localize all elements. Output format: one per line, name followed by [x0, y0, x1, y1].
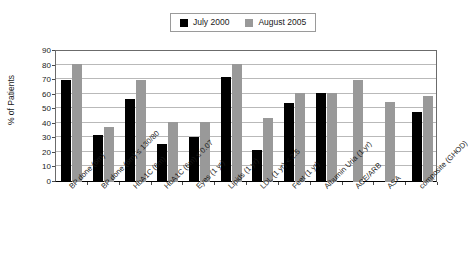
x-axis-tick-mark	[214, 182, 215, 185]
bar-group	[88, 51, 120, 182]
bar-group	[120, 51, 152, 182]
bar	[136, 80, 146, 182]
bar	[93, 135, 103, 182]
bar	[189, 137, 199, 182]
x-axis-tick-mark	[310, 182, 311, 185]
y-axis-tick-mark	[52, 65, 55, 66]
bar-group	[311, 51, 343, 182]
bar-group	[247, 51, 279, 182]
bar	[385, 102, 395, 182]
legend-label-july-2000: July 2000	[193, 18, 229, 27]
bar-group	[279, 51, 311, 182]
y-axis-tick-label: 90	[35, 47, 51, 55]
bar	[263, 118, 273, 182]
y-axis-tick-label: 20	[35, 149, 51, 157]
y-axis-tick-label: 50	[35, 105, 51, 113]
bar-group	[183, 51, 215, 182]
bar	[327, 93, 337, 182]
x-axis-tick-mark	[182, 182, 183, 185]
legend-entry-august-2005: August 2005	[245, 18, 306, 27]
y-axis-tick-label: 60	[35, 91, 51, 99]
y-axis-tick-label: 30	[35, 134, 51, 142]
x-axis-tick-mark	[405, 182, 406, 185]
bar	[423, 96, 433, 182]
bars-layer	[56, 51, 436, 182]
y-axis-tick-label: 40	[35, 120, 51, 128]
y-axis-tick-label: 0	[35, 178, 51, 186]
bar	[200, 122, 210, 182]
bar	[125, 99, 135, 182]
bar	[284, 103, 294, 182]
y-axis-tick-mark	[52, 137, 55, 138]
y-axis-tick-mark	[52, 152, 55, 153]
bar	[157, 144, 167, 182]
bar	[104, 127, 114, 182]
legend-swatch-gray-icon	[245, 19, 253, 27]
bar	[168, 122, 178, 182]
x-axis-tick-mark	[87, 182, 88, 185]
bar	[295, 93, 305, 182]
bar	[353, 80, 363, 182]
bar	[252, 150, 262, 182]
x-axis-tick-mark	[278, 182, 279, 185]
x-axis-tick-mark	[246, 182, 247, 185]
legend-label-august-2005: August 2005	[258, 18, 306, 27]
y-axis-tick-mark	[52, 181, 55, 182]
bar-group	[215, 51, 247, 182]
legend-entry-july-2000: July 2000	[180, 18, 229, 27]
y-axis-tick-label: 10	[35, 163, 51, 171]
x-axis-tick-mark	[437, 182, 438, 185]
bar	[412, 112, 422, 182]
x-axis-tick-mark	[373, 182, 374, 185]
bar-group	[374, 51, 406, 182]
y-axis-tick-label: 80	[35, 62, 51, 70]
y-axis-title: % of Patients	[6, 55, 16, 145]
bar	[316, 93, 326, 182]
x-axis-tick-mark	[119, 182, 120, 185]
y-axis-tick-mark	[52, 79, 55, 80]
bar-group	[152, 51, 184, 182]
bar	[61, 80, 71, 182]
y-axis-tick-mark	[52, 108, 55, 109]
y-axis-tick-mark	[52, 94, 55, 95]
bar-group	[343, 51, 375, 182]
chart-legend: July 2000 August 2005	[170, 13, 316, 32]
bar-group	[406, 51, 438, 182]
y-axis-tick-labels: 0102030405060708090	[30, 50, 51, 182]
legend-swatch-black-icon	[180, 19, 188, 27]
bar-group	[56, 51, 88, 182]
x-axis-tick-mark	[151, 182, 152, 185]
bar	[221, 77, 231, 182]
y-axis-tick-label: 70	[35, 76, 51, 84]
x-axis-tick-mark	[342, 182, 343, 185]
y-axis-tick-mark	[52, 166, 55, 167]
y-axis-tick-mark	[52, 50, 55, 51]
y-axis-tick-mark	[52, 123, 55, 124]
bar	[232, 64, 242, 182]
bar	[72, 64, 82, 182]
